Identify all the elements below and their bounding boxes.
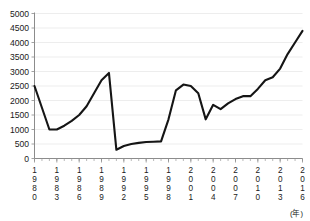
svg-text:3: 3 [55, 193, 60, 202]
y-tick-label: 4500 [10, 23, 29, 33]
svg-text:1: 1 [32, 166, 37, 175]
svg-text:2: 2 [233, 166, 238, 175]
x-axis-tick-labels: 1980198319861989199219951998200120042007… [32, 166, 305, 203]
svg-text:0: 0 [233, 175, 238, 184]
x-tick-label: 1992 [122, 166, 127, 203]
svg-text:2: 2 [300, 166, 305, 175]
y-tick-label: 2000 [10, 96, 29, 106]
svg-text:8: 8 [32, 184, 37, 193]
x-tick-label: 1995 [144, 166, 149, 203]
y-tick-label: 2500 [10, 81, 29, 91]
svg-text:4: 4 [211, 193, 216, 202]
svg-text:0: 0 [256, 175, 261, 184]
x-tick-label: 2004 [211, 166, 216, 203]
svg-text:6: 6 [77, 193, 82, 202]
svg-text:1: 1 [77, 166, 82, 175]
svg-text:2: 2 [211, 166, 216, 175]
svg-text:1: 1 [55, 166, 60, 175]
svg-text:9: 9 [32, 175, 37, 184]
svg-text:2: 2 [278, 166, 283, 175]
svg-text:1: 1 [256, 184, 261, 193]
line-chart: 0500100015002000250030003500400045005000… [0, 0, 310, 221]
svg-text:0: 0 [32, 193, 37, 202]
svg-text:8: 8 [77, 184, 82, 193]
svg-text:7: 7 [233, 193, 238, 202]
x-tick-label: 1980 [32, 166, 37, 203]
y-axis-tick-labels: 0500100015002000250030003500400045005000 [10, 9, 29, 164]
x-tick-label: 2016 [300, 166, 305, 203]
svg-text:8: 8 [166, 193, 171, 202]
svg-text:1: 1 [166, 166, 171, 175]
svg-text:9: 9 [144, 175, 149, 184]
x-tick-label: 1986 [77, 166, 82, 203]
x-tick-label: 2013 [278, 166, 283, 203]
grid-lines [35, 14, 303, 145]
svg-text:0: 0 [233, 184, 238, 193]
y-tick-label: 1500 [10, 110, 29, 120]
svg-text:8: 8 [99, 184, 104, 193]
x-tick-label: 2010 [256, 166, 261, 203]
y-tick-label: 1000 [10, 125, 29, 135]
x-axis-major-ticks [35, 159, 303, 163]
svg-text:0: 0 [300, 175, 305, 184]
svg-text:1: 1 [144, 166, 149, 175]
x-axis-unit-label: (年) [290, 208, 304, 218]
svg-text:9: 9 [122, 175, 127, 184]
svg-text:1: 1 [99, 166, 104, 175]
svg-text:1: 1 [278, 184, 283, 193]
svg-text:0: 0 [211, 175, 216, 184]
svg-text:2: 2 [189, 166, 194, 175]
x-tick-label: 1983 [55, 166, 60, 203]
svg-text:9: 9 [99, 193, 104, 202]
x-tick-label: 2007 [233, 166, 238, 203]
y-tick-label: 4000 [10, 38, 29, 48]
svg-text:9: 9 [166, 184, 171, 193]
svg-text:0: 0 [189, 184, 194, 193]
y-tick-label: 500 [15, 139, 30, 149]
svg-text:9: 9 [99, 175, 104, 184]
svg-text:9: 9 [144, 184, 149, 193]
svg-text:2: 2 [122, 193, 127, 202]
svg-text:1: 1 [300, 184, 305, 193]
svg-text:9: 9 [55, 175, 60, 184]
x-tick-label: 1998 [166, 166, 171, 203]
svg-text:0: 0 [211, 184, 216, 193]
svg-text:1: 1 [122, 166, 127, 175]
svg-text:2: 2 [256, 166, 261, 175]
data-series-line [35, 31, 303, 150]
svg-text:0: 0 [189, 175, 194, 184]
svg-text:5: 5 [144, 193, 149, 202]
svg-text:0: 0 [256, 193, 261, 202]
x-tick-label: 2001 [189, 166, 194, 203]
y-tick-label: 3000 [10, 67, 29, 77]
svg-text:8: 8 [55, 184, 60, 193]
x-tick-label: 1989 [99, 166, 104, 203]
svg-text:6: 6 [300, 193, 305, 202]
svg-text:1: 1 [189, 193, 194, 202]
svg-text:0: 0 [278, 175, 283, 184]
svg-text:9: 9 [77, 175, 82, 184]
y-tick-label: 0 [24, 154, 29, 164]
y-tick-label: 5000 [10, 9, 29, 19]
svg-text:3: 3 [278, 193, 283, 202]
svg-text:9: 9 [122, 184, 127, 193]
chart-canvas: 0500100015002000250030003500400045005000… [0, 0, 310, 221]
y-tick-label: 3500 [10, 52, 29, 62]
svg-text:9: 9 [166, 175, 171, 184]
